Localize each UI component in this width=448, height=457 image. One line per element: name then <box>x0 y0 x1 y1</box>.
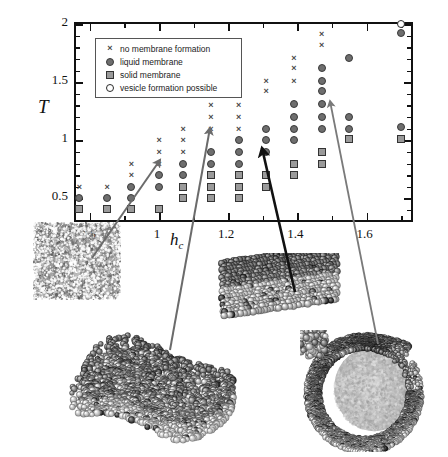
y-tick-label: 1.5 <box>0 72 68 88</box>
x-axis-label: hc <box>170 230 183 251</box>
data-point-filled-square <box>318 160 326 168</box>
data-point-filled-circle <box>262 136 270 144</box>
filled-square-icon <box>100 71 120 79</box>
data-point-filled-square <box>75 205 83 213</box>
data-point-filled-circle <box>397 29 405 37</box>
data-point-filled-circle <box>318 64 326 72</box>
data-point-filled-circle <box>318 113 326 121</box>
data-point-cross: × <box>181 124 186 133</box>
y-tick-major <box>404 82 411 84</box>
y-tick-minor <box>76 129 80 130</box>
data-point-cross: × <box>208 113 213 122</box>
data-point-cross: × <box>319 30 324 39</box>
y-tick-major <box>76 140 83 142</box>
legend-label: vesicle formation possible <box>120 83 217 93</box>
data-point-filled-circle <box>345 113 353 121</box>
y-tick-minor <box>407 175 411 176</box>
data-point-filled-circle <box>290 125 298 133</box>
data-point-filled-circle <box>127 183 135 191</box>
data-point-filled-square <box>179 194 187 202</box>
y-tick-minor <box>76 36 80 37</box>
x-tick-minor <box>263 216 264 220</box>
data-point-filled-circle <box>345 125 353 133</box>
x-tick-label: 1.2 <box>218 226 234 242</box>
data-point-filled-square <box>318 148 326 156</box>
y-tick-minor <box>76 59 80 60</box>
data-point-filled-circle <box>103 194 111 202</box>
data-point-filled-circle <box>155 171 163 179</box>
y-tick-major <box>404 198 411 200</box>
data-point-filled-square <box>103 205 111 213</box>
y-tick-minor <box>76 71 80 72</box>
data-point-filled-circle <box>318 125 326 133</box>
y-tick-minor <box>407 59 411 60</box>
legend-item-vesicle: vesicle formation possible <box>100 81 237 94</box>
data-point-filled-circle <box>290 136 298 144</box>
data-point-filled-square <box>397 135 405 143</box>
data-point-cross: × <box>291 53 296 62</box>
data-point-filled-circle <box>318 100 326 108</box>
x-tick-major <box>159 213 161 220</box>
data-point-filled-circle <box>345 54 353 62</box>
legend-box: × no membrane formation liquid membrane … <box>95 38 242 98</box>
data-point-filled-square <box>127 205 135 213</box>
y-tick-label: 2 <box>0 14 68 30</box>
data-point-filled-square <box>262 183 270 191</box>
x-tick-major <box>297 24 299 31</box>
y-tick-minor <box>76 105 80 106</box>
data-point-filled-square <box>262 171 270 179</box>
data-point-filled-circle <box>318 87 326 95</box>
data-point-filled-circle <box>290 100 298 108</box>
data-point-filled-circle <box>207 148 215 156</box>
snapshot-gas-canvas <box>33 222 121 300</box>
open-circle-icon <box>100 84 120 92</box>
data-point-filled-circle <box>179 171 187 179</box>
data-point-cross: × <box>264 76 269 85</box>
y-tick-minor <box>76 117 80 118</box>
snapshot-vesicle <box>300 330 428 452</box>
x-tick-minor <box>401 216 402 220</box>
y-tick-minor <box>407 94 411 95</box>
data-point-filled-square <box>235 194 243 202</box>
data-point-cross: × <box>291 76 296 85</box>
data-point-filled-circle <box>290 113 298 121</box>
snapshot-solid <box>218 253 346 331</box>
x-tick-minor <box>124 216 125 220</box>
legend-item-liquid-membrane: liquid membrane <box>100 55 237 68</box>
y-tick-minor <box>407 129 411 130</box>
x-tick-major <box>297 213 299 220</box>
y-tick-minor <box>76 175 80 176</box>
snapshot-liquid-canvas <box>66 322 238 444</box>
data-point-filled-circle <box>179 160 187 168</box>
data-point-cross: × <box>319 40 324 49</box>
snapshot-gas <box>33 222 121 300</box>
x-tick-major <box>367 24 369 31</box>
cross-icon: × <box>100 44 120 53</box>
x-tick-minor <box>332 24 333 28</box>
legend-item-solid-membrane: solid membrane <box>100 68 237 81</box>
data-point-cross: × <box>236 113 241 122</box>
data-point-filled-circle <box>75 194 83 202</box>
y-tick-minor <box>407 47 411 48</box>
x-tick-minor <box>194 24 195 28</box>
x-tick-label: 1.4 <box>287 226 303 242</box>
data-point-filled-circle <box>127 194 135 202</box>
data-point-filled-circle <box>155 183 163 191</box>
x-tick-minor <box>124 24 125 28</box>
y-tick-minor <box>407 71 411 72</box>
y-tick-minor <box>407 210 411 211</box>
data-point-cross: × <box>156 159 161 168</box>
legend-label: solid membrane <box>120 70 180 80</box>
data-point-cross: × <box>264 87 269 96</box>
snapshot-vesicle-canvas <box>300 330 428 452</box>
data-point-filled-square <box>207 171 215 179</box>
data-point-cross: × <box>104 182 109 191</box>
x-tick-minor <box>263 24 264 28</box>
y-tick-label: 1 <box>0 130 68 146</box>
x-axis-label-subscript: c <box>179 239 184 251</box>
data-point-cross: × <box>129 171 134 180</box>
data-point-cross: × <box>236 124 241 133</box>
y-axis-label: T <box>38 96 49 118</box>
data-point-filled-square <box>207 194 215 202</box>
filled-circle-icon <box>100 58 120 66</box>
